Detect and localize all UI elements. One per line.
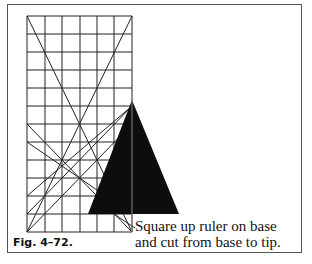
caption-line-1: Square up ruler on base	[135, 218, 281, 234]
triangle-shape	[88, 100, 179, 214]
figure-label: Fig. 4–72.	[13, 236, 73, 249]
caption: Square up ruler on base and cut from bas…	[135, 218, 281, 250]
caption-line-2: and cut from base to tip.	[135, 234, 281, 250]
